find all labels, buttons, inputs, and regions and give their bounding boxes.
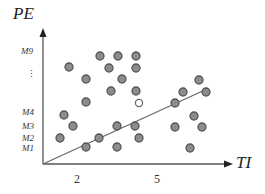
hollow-points bbox=[135, 99, 142, 106]
data-point bbox=[190, 112, 198, 120]
data-point bbox=[113, 143, 121, 151]
data-point bbox=[131, 122, 139, 130]
data-point bbox=[60, 111, 68, 119]
x-tick-2: 2 bbox=[74, 172, 80, 187]
data-point bbox=[114, 52, 122, 60]
separator-line bbox=[43, 89, 207, 164]
data-point bbox=[179, 88, 187, 96]
y-axis-arrow-icon bbox=[40, 28, 47, 37]
data-point bbox=[132, 52, 140, 60]
data-point bbox=[82, 98, 90, 106]
data-point bbox=[107, 87, 115, 95]
hollow-data-point bbox=[135, 99, 142, 106]
data-point bbox=[135, 134, 143, 142]
x-axis-title: TI bbox=[236, 153, 251, 173]
x-tick-5: 5 bbox=[154, 172, 160, 187]
y-tick-ellipsis: ⋮ bbox=[27, 70, 36, 79]
data-point bbox=[171, 123, 179, 131]
y-tick-m2: M2 bbox=[22, 133, 34, 143]
data-point bbox=[132, 87, 140, 95]
x-axis-arrow-icon bbox=[224, 161, 233, 168]
data-point bbox=[202, 88, 210, 96]
data-point bbox=[198, 123, 206, 131]
data-point bbox=[82, 143, 90, 151]
data-point bbox=[113, 122, 121, 130]
data-point bbox=[195, 76, 203, 84]
y-tick-m4: M4 bbox=[22, 107, 34, 117]
data-point bbox=[186, 144, 194, 152]
axes bbox=[40, 28, 234, 168]
y-axis-title: PE bbox=[13, 4, 34, 24]
data-point bbox=[95, 134, 103, 142]
data-point bbox=[65, 63, 73, 71]
data-point bbox=[96, 52, 104, 60]
y-tick-m1: M1 bbox=[22, 143, 34, 153]
data-point bbox=[171, 99, 179, 107]
data-point bbox=[105, 64, 113, 72]
data-point bbox=[56, 134, 64, 142]
data-point bbox=[82, 75, 90, 83]
data-point bbox=[118, 75, 126, 83]
data-points bbox=[56, 52, 210, 152]
data-point bbox=[69, 122, 77, 130]
data-point bbox=[132, 64, 140, 72]
diagram-canvas bbox=[0, 0, 265, 194]
y-tick-m3: M3 bbox=[22, 121, 34, 131]
y-tick-m9: M9 bbox=[21, 46, 33, 56]
